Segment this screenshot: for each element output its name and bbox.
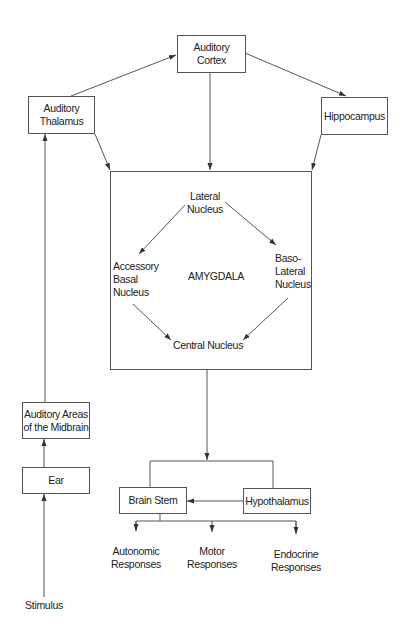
auditory-midbrain-label-1: Auditory Areas xyxy=(24,408,89,421)
endocrine-label-2: Responses xyxy=(266,561,326,574)
accessory-basal-nucleus-node: Accessory Basal Nucleus xyxy=(113,260,159,299)
autonomic-label-1: Autonomic xyxy=(106,545,166,558)
response-branch-line xyxy=(136,521,296,533)
basolateral-label-1: Baso- xyxy=(275,252,309,265)
auditory-cortex-label-1: Auditory xyxy=(193,41,229,54)
ear-node: Ear xyxy=(22,467,90,494)
lateral-nucleus-label-2: Nucleus xyxy=(180,203,230,216)
hypothalamus-node: Hypothalamus xyxy=(243,488,311,514)
accessory-basal-label-3: Nucleus xyxy=(113,286,159,299)
arrow-thalamus-amygdala xyxy=(95,134,110,170)
accessory-basal-label-2: Basal xyxy=(113,273,159,286)
autonomic-responses-node: Autonomic Responses xyxy=(106,545,166,571)
hypothalamus-label: Hypothalamus xyxy=(245,495,309,508)
auditory-midbrain-label-2: of the Midbrain xyxy=(24,421,89,434)
basolateral-nucleus-node: Baso- Lateral Nucleus xyxy=(275,252,309,291)
auditory-thalamus-node: Auditory Thalamus xyxy=(28,96,95,134)
basolateral-label-3: Nucleus xyxy=(275,278,309,291)
stimulus-label: Stimulus xyxy=(19,599,69,612)
auditory-cortex-label-2: Cortex xyxy=(193,54,229,67)
motor-label-2: Responses xyxy=(182,558,242,571)
arrow-thalamus-cortex xyxy=(71,55,176,96)
brain-stem-node: Brain Stem xyxy=(119,487,187,514)
hippocampus-label: Hippocampus xyxy=(324,110,385,123)
endocrine-label-1: Endocrine xyxy=(266,548,326,561)
auditory-cortex-node: Auditory Cortex xyxy=(177,35,246,73)
amygdala-label-node: AMYGDALA xyxy=(188,270,238,283)
hippocampus-node: Hippocampus xyxy=(321,97,388,135)
auditory-thalamus-label-2: Thalamus xyxy=(40,115,84,128)
basolateral-label-2: Lateral xyxy=(275,265,309,278)
motor-responses-node: Motor Responses xyxy=(182,545,242,571)
stimulus-node: Stimulus xyxy=(19,599,69,612)
accessory-basal-label-1: Accessory xyxy=(113,260,159,273)
arrow-cortex-hippocampus xyxy=(245,53,346,96)
amygdala-label: AMYGDALA xyxy=(188,270,238,283)
motor-label-1: Motor xyxy=(182,545,242,558)
brain-stem-label: Brain Stem xyxy=(129,494,178,507)
central-nucleus-label: Central Nucleus xyxy=(168,339,248,352)
endocrine-responses-node: Endocrine Responses xyxy=(266,548,326,574)
ear-label: Ear xyxy=(48,474,63,487)
lateral-nucleus-node: Lateral Nucleus xyxy=(180,190,230,216)
auditory-thalamus-label-1: Auditory xyxy=(40,102,84,115)
branch-line xyxy=(150,461,273,488)
central-nucleus-node: Central Nucleus xyxy=(168,339,248,352)
lateral-nucleus-label-1: Lateral xyxy=(180,190,230,203)
auditory-midbrain-node: Auditory Areas of the Midbrain xyxy=(22,402,90,439)
arrow-hippocampus-amygdala xyxy=(312,135,321,170)
autonomic-label-2: Responses xyxy=(106,558,166,571)
